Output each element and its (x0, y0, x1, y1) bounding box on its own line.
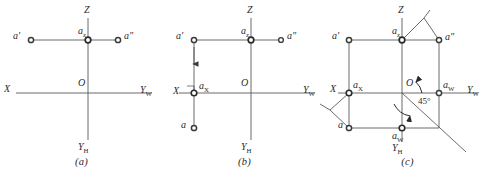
point-a-z-marker (399, 37, 405, 43)
label-a-b: a (181, 120, 186, 130)
label-axis-z-b: Z (247, 5, 253, 15)
label-axis-yw-a: YW (140, 85, 152, 98)
rotation-fold-bl-upper (330, 93, 349, 110)
diagram-panel-b: a' a" az aX a Z X YW YH O (b) (163, 0, 326, 182)
rotation-fold-left-line (402, 18, 424, 40)
label-axis-yh-c: YH (392, 143, 402, 156)
rotation-fold-right-line (424, 18, 439, 40)
label-angle-45-c: 45° (418, 97, 431, 106)
label-axis-x-b: X (173, 86, 179, 96)
figure-root: a' a" az Z X YW YH O (a) (0, 0, 490, 182)
label-a-double-prime-c: a" (445, 32, 454, 42)
point-a-w-bottom-marker (399, 125, 405, 131)
label-a-x-c: aX (353, 80, 363, 93)
point-a-x-marker (346, 90, 352, 96)
label-a-prime-a: a' (13, 31, 20, 41)
point-a-prime-marker (346, 37, 351, 42)
label-axis-yh-a: YH (78, 142, 88, 155)
label-origin-a: O (78, 78, 85, 88)
caption-a: (a) (0, 156, 163, 167)
label-a-c: a (338, 120, 343, 130)
bisector-45-line (402, 93, 466, 152)
point-a-double-prime-marker (279, 38, 284, 43)
label-a-z-c: az (392, 26, 400, 39)
point-a-double-prime-marker (115, 37, 120, 42)
point-a-prime-marker (28, 37, 33, 42)
point-a-double-prime-marker (436, 37, 441, 42)
point-a-x-marker (191, 90, 197, 96)
label-a-x-b: aX (199, 81, 209, 94)
label-origin-b: O (241, 78, 248, 88)
label-a-double-prime-b: a" (287, 31, 296, 41)
rotation-arc-upper (416, 82, 422, 93)
label-a-prime-c: a' (332, 31, 339, 41)
label-axis-x-c: X (330, 84, 336, 94)
label-origin-c: O (406, 78, 413, 88)
label-axis-z-c: Z (398, 5, 404, 15)
point-a-marker (346, 125, 351, 130)
diagram-panel-a: a' a" az Z X YW YH O (a) (0, 0, 163, 182)
label-axis-z-a: Z (84, 5, 90, 15)
caption-b: (b) (163, 156, 326, 167)
label-axis-yh-b: YH (241, 142, 251, 155)
label-a-prime-b: a' (176, 31, 183, 41)
point-a-marker (191, 125, 196, 130)
point-a-z-marker (248, 37, 254, 43)
point-a-w-right-marker (436, 90, 441, 95)
label-a-z-b: az (241, 26, 249, 39)
point-a-z-marker (85, 37, 91, 43)
label-axis-x-a: X (4, 84, 10, 94)
diagram-panel-c: a' a" az aX aW aW a Z X YW YH O 45° (c) (326, 0, 489, 182)
label-a-w-right-c: aW (443, 80, 454, 93)
label-axis-yw-b: YW (303, 85, 315, 98)
label-a-double-prime-a: a" (124, 31, 133, 41)
label-axis-yw-c: YW (467, 85, 479, 98)
caption-c: (c) (326, 156, 489, 167)
label-a-z-a: az (78, 26, 86, 39)
rotation-fold-tick (424, 10, 430, 18)
point-a-prime-marker (191, 37, 196, 42)
